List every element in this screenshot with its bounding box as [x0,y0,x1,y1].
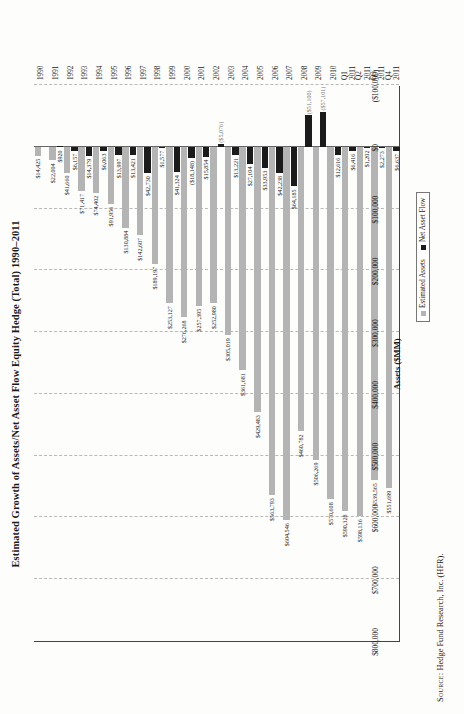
data-label-estimated-assets: $22,004 [50,163,56,183]
category-tick-line: 2003 [227,66,235,80]
bar-net-asset-flow [174,147,180,173]
bar-estimated-assets [313,147,319,460]
bar-estimated-assets [137,147,143,235]
category-tick-line: 2007 [286,66,294,80]
category-tick-label: 1994 [96,66,104,80]
data-label-net-asset-flow: $42,730 [145,176,151,196]
legend-swatch-icon [421,311,426,316]
category-tick-line: 2011 [393,66,401,80]
data-label-net-asset-flow: $6,157 [72,154,78,171]
data-label-estimated-assets: $460,782 [298,434,304,457]
category-tick-label: 1990 [37,66,45,80]
category-tick-label: 1999 [169,66,177,80]
data-label-net-asset-flow: $1,202 [364,151,370,168]
bar-estimated-assets [108,147,114,204]
bar-net-asset-flow [232,147,238,155]
category-tick-line: 1998 [154,66,162,80]
data-label-estimated-assets: $551,699 [386,491,392,514]
category-tick-label: Q42011 [384,66,401,80]
bar-net-asset-flow [364,147,370,148]
category-tick-label: 2005 [257,66,265,80]
data-label-estimated-assets: $563,793 [269,498,275,521]
gridline [34,578,399,579]
rotated-figure-container: Estimated Growth of Assets/Net Asset Flo… [0,0,464,714]
category-tick-line: 2008 [301,66,309,80]
bar-estimated-assets [93,147,99,193]
bar-net-asset-flow [71,147,77,151]
bar-estimated-assets [35,147,41,156]
data-label-net-asset-flow: $2,273 [379,151,385,168]
data-label-net-asset-flow: $13,997 [116,158,122,178]
bar-net-asset-flow [276,147,282,173]
data-label-estimated-assets: $305,019 [225,338,231,361]
chart-legend: Estimated Assets Net Asset Flow [416,192,430,322]
data-label-estimated-assets: $41,660 [64,176,70,196]
category-tick-label: 2003 [227,66,235,80]
bar-net-asset-flow [320,112,326,147]
data-label-net-asset-flow: $15,854 [203,160,209,180]
legend-item-net-asset-flow: Net Asset Flow [419,198,427,250]
bar-estimated-assets [298,147,304,432]
bar-net-asset-flow [130,147,136,155]
category-tick-line: 2010 [330,66,338,80]
data-label-net-asset-flow: ($51,100) [306,90,312,114]
bar-net-asset-flow [247,147,253,164]
data-label-net-asset-flow: $6,416 [350,154,356,171]
data-label-net-asset-flow: $6,637 [394,154,400,171]
data-label-estimated-assets: $74,402 [93,196,99,216]
bar-net-asset-flow [57,147,63,148]
data-label-net-asset-flow: ($18,148) [189,161,195,185]
category-tick-line: 1995 [110,66,118,80]
source-note: Source: Hedge Fund Research, Inc. (HFR). [436,553,445,702]
data-label-estimated-assets: $142,607 [137,238,143,261]
category-tick-line: 1999 [169,66,177,80]
data-label-estimated-assets: $253,127 [167,306,173,329]
category-tick-label: 1995 [110,66,118,80]
bar-net-asset-flow [86,147,92,156]
category-tick-line: 1991 [52,66,60,80]
data-label-estimated-assets: $189,197 [152,267,158,290]
category-tick-line: 1992 [66,66,74,80]
bar-estimated-assets [357,147,363,517]
data-label-net-asset-flow: ($57,101) [320,87,326,111]
data-label-net-asset-flow: $27,104 [247,167,253,187]
figure: Estimated Growth of Assets/Net Asset Flo… [0,0,464,714]
bar-net-asset-flow [188,147,194,158]
data-label-estimated-assets: $91,956 [108,207,114,227]
category-tick-line: 2001 [198,66,206,80]
category-tick-line: 1993 [81,66,89,80]
category-tick-line: 2002 [213,66,221,80]
category-tick-line: Q2 [355,66,363,80]
category-tick-label: 2004 [242,66,250,80]
data-label-estimated-assets: $598,136 [357,519,363,542]
category-tick-label: 2002 [213,66,221,80]
category-tick-line: 2004 [242,66,250,80]
source-text: Hedge Fund Research, Inc. (HFR). [436,553,445,670]
bar-net-asset-flow [305,115,311,147]
data-label-net-asset-flow: $33,953 [262,171,268,191]
bar-estimated-assets [181,147,187,318]
data-label-estimated-assets: $570,608 [328,502,334,525]
category-tick-label: 2007 [286,66,294,80]
data-label-net-asset-flow: $13,221 [233,158,239,178]
data-label-estimated-assets: $604,546 [284,523,290,546]
page-canvas: Estimated Growth of Assets/Net Asset Flo… [0,0,464,714]
data-label-estimated-assets: $361,681 [240,373,246,396]
legend-swatch-icon [421,245,426,250]
category-tick-line: 1997 [140,66,148,80]
bar-estimated-assets [254,147,260,412]
category-tick-label: 1998 [154,66,162,80]
legend-label: Net Asset Flow [419,198,427,242]
category-tick-line: 2000 [184,66,192,80]
bar-estimated-assets [122,147,128,228]
data-label-estimated-assets: $276,268 [181,320,187,343]
category-tick-line: 1996 [125,66,133,80]
legend-item-estimated-assets: Estimated Assets [419,259,427,316]
value-tick-label: $800,000 [371,628,380,656]
bar-estimated-assets [49,147,55,161]
bar-estimated-assets [152,147,158,264]
data-label-net-asset-flow: $12,616 [335,158,341,178]
bar-net-asset-flow [144,147,150,173]
data-label-net-asset-flow: $6,063 [101,154,107,171]
category-tick-label: 1992 [66,66,74,80]
